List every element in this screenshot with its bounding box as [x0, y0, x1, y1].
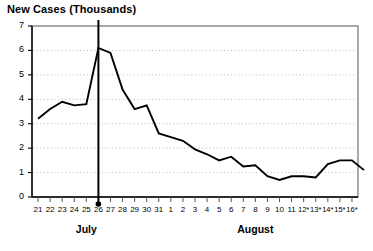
- group-label-august: August: [237, 223, 273, 235]
- x-axis-tick-label: 12*: [298, 205, 309, 214]
- x-axis-tick-label: 21: [34, 205, 43, 214]
- x-axis-tick-label: 9: [265, 205, 269, 214]
- y-axis-tick-label: 4: [8, 93, 24, 103]
- plot-frame: [32, 26, 358, 197]
- x-axis-tick-label: 31: [154, 205, 163, 214]
- x-axis-tick-label: 29: [130, 205, 139, 214]
- x-axis-tick-label: 25: [82, 205, 91, 214]
- y-axis-tick-label: 2: [8, 142, 24, 152]
- gridlines: [33, 50, 357, 172]
- y-axis-tick-label: 0: [8, 191, 24, 201]
- x-axis-tick-label: 11: [287, 205, 295, 214]
- x-axis-tick-label: 3: [193, 205, 197, 214]
- x-axis-tick-label: 15*: [334, 205, 345, 214]
- data-series-line: [38, 48, 364, 180]
- x-axis-tick-label: 2: [181, 205, 185, 214]
- x-axis-tick-label: 22: [46, 205, 55, 214]
- x-axis-tick-label: 26: [94, 205, 103, 214]
- y-axis-tick-label: 6: [8, 44, 24, 54]
- x-axis-tick-label: 8: [253, 205, 257, 214]
- x-axis-ticks: [38, 197, 352, 202]
- group-label-july: July: [76, 223, 97, 235]
- x-axis-tick-label: 23: [58, 205, 67, 214]
- x-axis-tick-label: 28: [118, 205, 127, 214]
- x-axis-tick-label: 4: [205, 205, 209, 214]
- x-axis-tick-label: 13*: [310, 205, 321, 214]
- x-axis-tick-label: 16*: [346, 205, 357, 214]
- x-axis-tick-label: 6: [229, 205, 233, 214]
- x-axis-tick-label: 5: [217, 205, 221, 214]
- y-axis-tick-label: 5: [8, 69, 24, 79]
- x-axis-tick-label: 30: [142, 205, 151, 214]
- x-axis-tick-label: 7: [241, 205, 245, 214]
- y-axis-tick-label: 3: [8, 118, 24, 128]
- x-axis-tick-label: 24: [70, 205, 79, 214]
- x-axis-tick-label: 14*: [322, 205, 333, 214]
- chart-container: New Cases (Thousands) 76543210 212223242…: [0, 0, 373, 251]
- x-axis-tick-label: 27: [106, 205, 115, 214]
- x-axis-tick-label: 1: [169, 205, 173, 214]
- y-axis-tick-label: 1: [8, 167, 24, 177]
- y-axis-tick-label: 7: [8, 20, 24, 30]
- x-axis-tick-label: 10: [275, 205, 284, 214]
